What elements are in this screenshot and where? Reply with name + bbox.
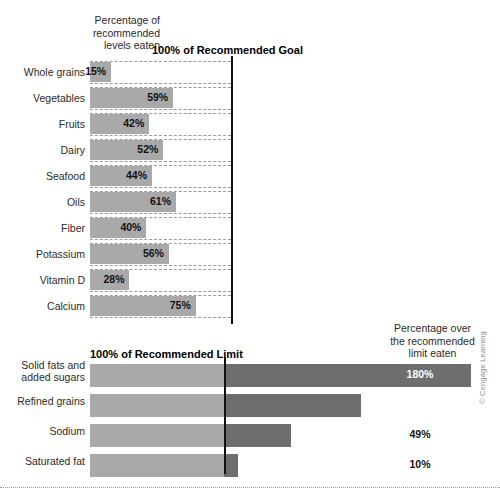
bar-category-label: Sodium [0, 425, 85, 437]
bar-within-limit [90, 454, 224, 477]
gridline [90, 135, 231, 136]
gridline [90, 109, 231, 110]
gridline [90, 239, 231, 240]
bar-value-label: 75% [170, 299, 191, 311]
bar-category-label-line-1: Saturated fat [0, 455, 85, 467]
bar: 52% [90, 140, 163, 160]
gridline [90, 265, 231, 266]
bar-category-label: Potassium [0, 248, 85, 260]
bar-value-label: 28% [103, 273, 124, 285]
bottom-axis-title: 100% of Recommended Limit [90, 348, 243, 360]
bar-value-label: 49% [390, 428, 450, 440]
under-consumed-panel: Whole grains15%Vegetables59%Fruits42%Dai… [0, 60, 500, 322]
bar-category-label-line-2: added sugars [0, 371, 85, 383]
bar-category-label: Calcium [0, 300, 85, 312]
bottom-hundred-percent-line [224, 357, 226, 474]
bar-category-label: Saturated fat [0, 455, 85, 467]
top-caption-line-1: Percentage of [40, 14, 160, 27]
bar-within-limit [90, 364, 224, 387]
bottom-caption-line-1: Percentage over [370, 322, 495, 335]
bar: 61% [90, 192, 176, 212]
table-row: Potassium56% [0, 242, 500, 268]
gridline [90, 291, 231, 292]
bar-value-label: 15% [85, 65, 106, 77]
copyright-credit: © Cengage Learning [478, 331, 487, 404]
bar-category-label: Fruits [0, 118, 85, 130]
bar-over-limit [224, 424, 291, 447]
bar: 75% [90, 296, 196, 316]
bar-category-label: Vitamin D [0, 274, 85, 286]
bar-value-label: 59% [147, 91, 168, 103]
gridline [90, 161, 231, 162]
bar-within-limit [90, 394, 224, 417]
bar-value-label: 52% [137, 143, 158, 155]
gridline [90, 213, 231, 214]
bar-over-limit [224, 454, 238, 477]
bar-category-label: Oils [0, 196, 85, 208]
table-row: Fruits42% [0, 112, 500, 138]
bar: 44% [90, 166, 152, 186]
bar-value-label: 100% [390, 398, 450, 410]
bottom-caption-line-3: limit eaten [370, 347, 495, 360]
top-axis-title: 100% of Recommended Goal [152, 44, 303, 56]
bar-value-label: 61% [150, 195, 171, 207]
bar-value-label: 180% [390, 368, 450, 380]
table-row: Dairy52% [0, 138, 500, 164]
bar: 28% [90, 270, 129, 290]
bar-category-label-line-1: Sodium [0, 425, 85, 437]
top-hundred-percent-line [231, 56, 233, 324]
bottom-panel-caption: Percentage over the recommended limit ea… [370, 322, 495, 360]
table-row: Whole grains15% [0, 60, 500, 86]
table-row: Vitamin D28% [0, 268, 500, 294]
bar-value-label: 42% [123, 117, 144, 129]
table-row: Solid fats andadded sugars180% [0, 362, 500, 392]
bar: 15% [90, 62, 111, 82]
bar-category-label: Seafood [0, 170, 85, 182]
table-row: Seafood44% [0, 164, 500, 190]
top-caption-line-3: levels eaten [40, 39, 160, 52]
table-row: Sodium49% [0, 422, 500, 452]
bar-within-limit [90, 424, 224, 447]
over-consumed-panel: Solid fats andadded sugars180%Refined gr… [0, 362, 500, 482]
bar-category-label: Refined grains [0, 395, 85, 407]
bar-category-label-line-1: Refined grains [0, 395, 85, 407]
bar: 42% [90, 114, 149, 134]
gridline [90, 187, 231, 188]
bar: 56% [90, 244, 169, 264]
table-row: Vegetables59% [0, 86, 500, 112]
bar-value-label: 56% [143, 247, 164, 259]
bar-category-label: Dairy [0, 144, 85, 156]
bar-category-label-line-1: Solid fats and [0, 359, 85, 371]
table-row: Saturated fat10% [0, 452, 500, 482]
bar: 40% [90, 218, 146, 238]
bar: 59% [90, 88, 173, 108]
bar-category-label: Fiber [0, 222, 85, 234]
bar-value-label: 44% [126, 169, 147, 181]
table-row: Oils61% [0, 190, 500, 216]
bar-value-label: 10% [390, 458, 450, 470]
gridline [90, 83, 231, 84]
table-row: Refined grains100% [0, 392, 500, 422]
top-panel-caption: Percentage of recommended levels eaten [40, 14, 160, 52]
gridline [90, 61, 231, 62]
bar-category-label: Solid fats andadded sugars [0, 359, 85, 383]
gridline [90, 317, 231, 318]
table-row: Fiber40% [0, 216, 500, 242]
footer-divider [0, 487, 500, 488]
bar-category-label: Vegetables [0, 92, 85, 104]
top-caption-line-2: recommended [40, 27, 160, 40]
nutrition-intake-chart: Percentage of recommended levels eaten 1… [0, 0, 500, 495]
bar-over-limit [224, 394, 361, 417]
bar-category-label: Whole grains [0, 66, 85, 78]
table-row: Calcium75% [0, 294, 500, 320]
bottom-caption-line-2: the recommended [370, 335, 495, 348]
bar-value-label: 40% [120, 221, 141, 233]
